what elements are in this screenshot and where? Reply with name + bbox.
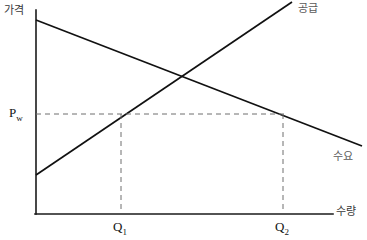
chart-canvas <box>0 0 367 240</box>
y-axis-label: 가격 <box>4 5 24 16</box>
demand-curve <box>36 20 362 146</box>
supply-demand-chart: 가격 수량 공급 수요 Pw Q1 Q2 <box>0 0 367 240</box>
q1-subscript: 1 <box>122 227 127 237</box>
supply-curve-label: 공급 <box>298 3 318 14</box>
demand-curve-label: 수요 <box>333 151 353 162</box>
price-level-subscript: w <box>16 113 23 123</box>
q1-letter: Q <box>113 219 122 234</box>
q2-letter: Q <box>275 219 284 234</box>
x-axis-label: 수량 <box>336 206 356 217</box>
q1-tick-label: Q1 <box>113 220 127 237</box>
q2-subscript: 2 <box>284 227 289 237</box>
supply-curve <box>36 2 292 175</box>
price-level-tick-label: Pw <box>9 106 23 123</box>
q2-tick-label: Q2 <box>275 220 289 237</box>
